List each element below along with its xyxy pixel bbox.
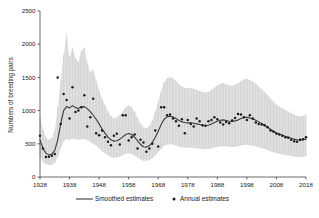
annual-estimate-point [278,133,281,136]
annual-estimate-point [219,121,222,124]
annual-estimate-point [42,147,45,150]
annual-estimate-point [201,124,204,127]
annual-estimate-point [124,114,127,117]
legend-label-smoothed: Smoothed estimates [95,195,153,202]
annual-estimate-point [119,143,122,146]
x-tick-label: 1988 [210,181,224,188]
annual-estimate-point [263,124,266,127]
annual-estimate-point [275,133,278,136]
confidence-band-group [40,34,306,165]
annual-estimate-point [210,119,213,122]
annual-estimate-point [56,76,59,79]
annual-estimate-point [45,156,48,159]
legend-label-annual: Annual estimates [180,195,229,202]
annual-estimate-point [284,136,287,139]
annual-estimate-point [169,113,172,116]
annual-estimate-point [80,106,83,109]
annual-estimate-point [101,129,104,132]
annual-estimate-point [175,120,178,123]
annual-estimate-point [86,125,89,128]
annual-estimate-point [145,151,148,154]
x-tick-label: 2008 [270,181,284,188]
annual-estimate-point [305,136,308,139]
annual-estimate-point [148,147,151,150]
annual-estimate-point [243,116,246,119]
annual-estimate-point [142,141,145,144]
annual-estimate-point [228,122,231,125]
annual-estimate-point [195,117,198,120]
annual-estimate-point [249,114,252,117]
annual-estimate-point [302,138,305,141]
annual-estimate-point [116,133,119,136]
annual-estimate-point [266,126,269,129]
x-tick-label: 1998 [240,181,254,188]
annual-estimate-point [260,123,263,126]
annual-estimate-point [160,106,163,109]
annual-estimate-point [192,125,195,128]
annual-estimate-point [287,137,290,140]
x-tick-label: 1958 [122,181,136,188]
annual-estimate-point [122,114,125,117]
x-tick-label: 1968 [151,181,165,188]
annual-estimate-point [151,143,154,146]
annual-estimate-point [48,156,51,159]
annual-estimate-point [198,120,201,123]
annual-estimate-point [184,132,187,135]
annual-estimate-point [272,131,275,134]
annual-estimate-point [252,117,255,120]
annual-estimate-point [225,121,228,124]
y-tick-labels: 05001000150020002500 [22,7,36,180]
annual-estimate-point [154,129,157,132]
annual-estimate-point [237,113,240,116]
annual-estimate-point [62,93,65,96]
annual-estimate-point [51,155,54,158]
annual-estimate-point [113,135,116,138]
annual-estimate-point [240,113,243,116]
annual-estimate-point [136,147,139,150]
x-tick-label: 1928 [33,181,47,188]
annual-estimate-point [189,123,192,126]
annual-estimate-point [104,136,107,139]
annual-estimate-point [178,125,181,128]
annual-estimate-point [204,125,207,128]
annual-estimate-point [139,139,142,142]
x-tick-labels: 1928193819481958196819781988199820082018 [33,181,313,188]
annual-estimate-point [296,141,299,144]
legend-point-swatch [173,198,176,201]
y-axis-title: Numbers of breeding pairs [7,57,15,132]
chart-container: 05001000150020002500 1928193819481958196… [0,0,319,218]
y-tick-label: 2000 [22,40,36,47]
annual-estimate-point [77,109,80,112]
annual-estimate-point [293,140,296,143]
annual-estimate-point [59,123,62,126]
annual-estimate-point [68,117,71,120]
annual-estimate-point [213,116,216,119]
annual-estimate-point [234,117,237,120]
annual-estimate-point [281,135,284,138]
annual-estimate-point [89,116,92,119]
annual-estimate-point [133,133,136,136]
x-tick-label: 2018 [299,181,313,188]
annual-estimate-point [231,119,234,122]
chart-legend: Smoothed estimates Annual estimates [76,195,229,202]
annual-estimate-point [71,86,74,89]
annual-estimate-point [187,119,190,122]
annual-estimate-point [107,141,110,144]
y-tick-label: 0 [32,173,36,180]
y-tick-label: 500 [25,140,36,147]
annual-estimate-point [163,106,166,109]
x-tick-label: 1978 [181,181,195,188]
x-tick-label: 1938 [63,181,77,188]
annual-estimate-point [127,139,130,142]
annual-estimate-point [299,139,302,142]
annual-estimate-point [83,94,86,97]
annual-estimate-point [207,120,210,123]
annual-estimate-point [222,123,225,126]
annual-estimate-point [110,144,113,147]
annual-estimate-point [257,123,260,126]
annual-estimate-point [216,118,219,121]
y-tick-label: 1000 [22,107,36,114]
annual-estimate-point [166,114,169,117]
annual-estimate-point [157,145,160,148]
annual-estimate-point [246,119,249,122]
